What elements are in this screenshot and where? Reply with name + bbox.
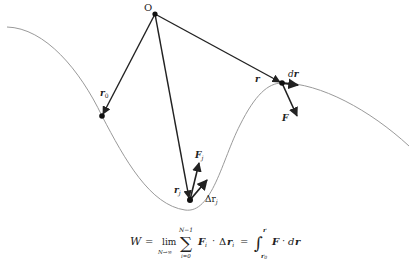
formula-F: F bbox=[271, 236, 280, 247]
vector-r0 bbox=[103, 14, 155, 114]
work-formula: W = lim N→∞ N−1 ∑ i=0 Fi · Δ ri = ∫ r r0… bbox=[0, 222, 413, 259]
formula-dot1: · bbox=[212, 235, 215, 246]
point-r bbox=[279, 80, 285, 86]
trajectory-curve bbox=[7, 27, 409, 210]
label-rj: rj bbox=[174, 185, 181, 197]
label-origin: O bbox=[144, 2, 152, 13]
formula-eq2: = bbox=[240, 236, 248, 247]
formula-delta: Δ bbox=[219, 236, 226, 247]
vector-r bbox=[155, 14, 280, 82]
point-rj bbox=[187, 197, 193, 203]
label-r: r bbox=[255, 74, 261, 84]
formula-int-top: r bbox=[263, 226, 267, 233]
label-Fj: Fj bbox=[194, 150, 203, 162]
formula-int-bottom: r0 bbox=[261, 252, 267, 259]
work-diagram: O r0 rj Fj Δrj r dr F bbox=[0, 0, 413, 222]
formula-dot2: · bbox=[282, 235, 285, 246]
point-r0 bbox=[99, 113, 105, 119]
formula-lim-sub: N→∞ bbox=[157, 249, 172, 255]
formula-integral: ∫ bbox=[254, 233, 263, 253]
label-F: F bbox=[281, 113, 289, 123]
formula-sum-top: N−1 bbox=[178, 226, 193, 233]
label-dr: dr bbox=[288, 69, 300, 79]
formula-d: d bbox=[288, 236, 294, 247]
label-delta-rj: Δrj bbox=[205, 194, 218, 206]
formula-Fi: Fi bbox=[197, 236, 207, 248]
formula-ri: ri bbox=[227, 236, 234, 248]
formula-eq1: = bbox=[145, 236, 153, 247]
origin-point bbox=[152, 11, 157, 16]
formula-sum: ∑ bbox=[180, 233, 192, 253]
label-r0: r0 bbox=[100, 88, 109, 99]
vector-rj bbox=[155, 14, 189, 198]
formula-lim: lim bbox=[162, 237, 177, 247]
formula-sum-bottom: i=0 bbox=[181, 253, 191, 259]
formula-r: r bbox=[295, 236, 301, 247]
vector-F bbox=[282, 83, 297, 116]
formula-W: W bbox=[130, 235, 143, 248]
